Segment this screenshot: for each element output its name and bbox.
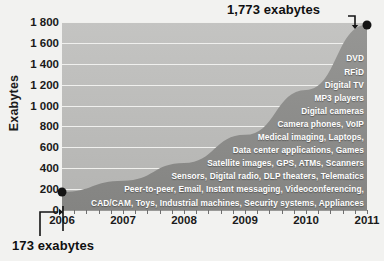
annotation-peak-value: 1,773 exabytes [227, 2, 320, 17]
annotation-start-value: 173 exabytes [12, 238, 94, 253]
